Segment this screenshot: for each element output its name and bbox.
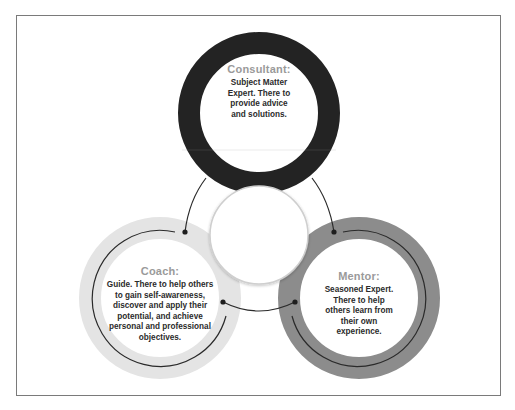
coach-title: Coach:	[95, 265, 225, 277]
consultant-title: Consultant:	[209, 63, 309, 75]
role-diagram	[0, 0, 515, 410]
connector-dot-icon	[182, 229, 187, 234]
consultant-line-3: provide advice	[209, 99, 309, 110]
coach-line-4: potential, and achieve	[95, 312, 225, 323]
consultant-line-2: Expert. There to	[209, 89, 309, 100]
mentor-label: Mentor: Seasoned Expert. There to help o…	[310, 270, 408, 338]
consultant-label: Consultant: Subject Matter Expert. There…	[209, 63, 309, 120]
mentor-line-4: their own	[310, 317, 408, 328]
mentor-line-2: There to help	[310, 296, 408, 307]
connector-dot-icon	[331, 229, 336, 234]
coach-line-2: to gain self-awareness,	[95, 291, 225, 302]
connector-dot-icon	[292, 299, 297, 304]
mentor-line-3: others learn from	[310, 306, 408, 317]
mentor-line-1: Seasoned Expert.	[310, 285, 408, 296]
coach-line-5: personal and professional	[95, 322, 225, 333]
mentor-line-5: experience.	[310, 327, 408, 338]
mentor-title: Mentor:	[310, 270, 408, 282]
coach-label: Coach: Guide. There to help others to ga…	[95, 265, 225, 343]
coach-line-6: objectives.	[95, 333, 225, 344]
coach-line-3: discover and apply their	[95, 301, 225, 312]
coach-line-1: Guide. There to help others	[95, 280, 225, 291]
consultant-line-1: Subject Matter	[209, 78, 309, 89]
consultant-line-4: and solutions.	[209, 110, 309, 121]
